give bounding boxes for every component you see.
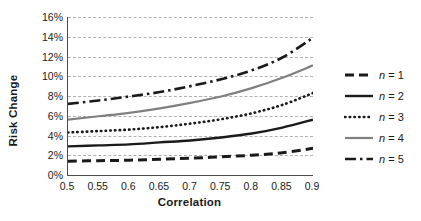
legend-label: n = 4 <box>379 132 404 144</box>
legend-line-swatch <box>344 69 374 81</box>
y-tick-label: 4% <box>23 130 63 142</box>
legend-line-swatch <box>344 111 374 123</box>
legend-line-swatch <box>344 153 374 165</box>
plot-area <box>67 17 313 176</box>
legend-item[interactable]: n = 2 <box>344 85 421 106</box>
legend-label: n = 2 <box>379 90 404 102</box>
y-tick-label: 2% <box>23 149 63 161</box>
legend-line-swatch <box>344 132 374 144</box>
legend-label: n = 5 <box>379 153 404 165</box>
y-tick-label: 12% <box>23 51 63 63</box>
legend-item[interactable]: n = 5 <box>344 148 421 169</box>
y-axis-tick-labels: 0%2%4%6%8%10%12%14%16% <box>20 17 63 175</box>
legend-item[interactable]: n = 4 <box>344 127 421 148</box>
series-lines <box>68 17 313 175</box>
x-axis-tick-labels: 0.50.550.60.650.70.750.80.850.9 <box>67 180 312 196</box>
chart-legend: n = 1n = 2n = 3n = 4n = 5 <box>344 64 421 169</box>
legend-item[interactable]: n = 3 <box>344 106 421 127</box>
legend-label: n = 3 <box>379 111 404 123</box>
series-line <box>68 65 313 119</box>
y-tick-label: 8% <box>23 90 63 102</box>
y-tick-label: 10% <box>23 70 63 82</box>
risk-change-vs-correlation-chart: Risk Change 0%2%4%6%8%10%12%14%16% 0.50.… <box>0 0 421 221</box>
x-axis-title: Correlation <box>67 196 312 208</box>
x-tick-label: 0.9 <box>292 180 332 192</box>
legend-line-swatch <box>344 90 374 102</box>
legend-item[interactable]: n = 1 <box>344 64 421 85</box>
series-line <box>68 38 313 104</box>
y-tick-label: 14% <box>23 31 63 43</box>
legend-label: n = 1 <box>379 69 404 81</box>
series-line <box>68 148 313 161</box>
y-tick-label: 6% <box>23 110 63 122</box>
y-tick-label: 16% <box>23 11 63 23</box>
